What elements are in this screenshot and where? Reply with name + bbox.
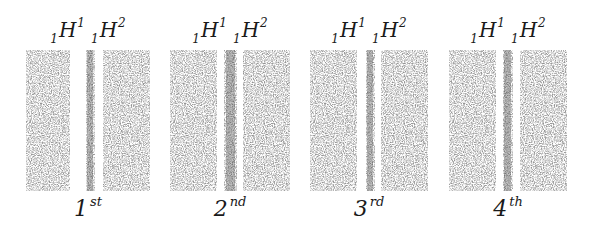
spectral-plate xyxy=(26,50,150,191)
order-label: 4th xyxy=(449,196,567,221)
isotope-label: 1H11H2 xyxy=(170,18,290,42)
order-label: 1st xyxy=(26,196,150,221)
spectrum-panel-3rd: 1H11H2 3rd xyxy=(310,0,428,234)
spectrum-panel-1st: 1H11H2 1st xyxy=(26,0,150,234)
isotope-label: 1H11H2 xyxy=(449,18,567,42)
h1-spectral-line xyxy=(226,50,235,191)
isotope-label: 1H11H2 xyxy=(26,18,150,42)
spectral-plate xyxy=(449,50,567,191)
order-label: 2nd xyxy=(170,196,290,221)
order-label: 3rd xyxy=(310,196,428,221)
h1-spectral-line xyxy=(367,50,373,191)
spectral-plate xyxy=(170,50,290,191)
isotope-label: 1H11H2 xyxy=(310,18,428,42)
h1-spectral-line xyxy=(87,50,93,191)
spectral-plate xyxy=(310,50,428,191)
spectrum-panel-2nd: 1H11H2 2nd xyxy=(170,0,290,234)
spectrum-panel-4th: 1H11H2 4th xyxy=(449,0,567,234)
h1-spectral-line xyxy=(504,50,511,191)
